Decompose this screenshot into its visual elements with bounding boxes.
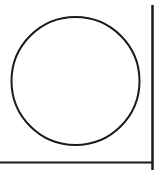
circle-shape [12,17,140,145]
diagram-canvas [0,0,157,170]
